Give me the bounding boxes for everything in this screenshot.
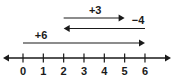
jump-arrowhead (119, 14, 125, 21)
axis-tick-label: 4 (101, 65, 108, 77)
axis-tick-label: 3 (81, 65, 87, 77)
jump-arrows-group: +3−4+6 (23, 4, 145, 47)
axis-tick-label: 2 (61, 65, 67, 77)
number-line-canvas: +3−4+6 0123456 (0, 0, 174, 80)
jump-arrow-label: +3 (89, 4, 102, 16)
axis-left-arrowhead (3, 54, 9, 61)
jump-arrow-label: +6 (35, 29, 48, 41)
jump-arrow-label: −4 (132, 14, 145, 26)
jump-arrowhead (64, 25, 70, 32)
number-line-figure: +3−4+6 0123456 (0, 0, 174, 80)
axis-tick-label: 6 (142, 65, 148, 77)
jump-arrow: +3 (64, 4, 125, 22)
axis-tick-label: 5 (122, 65, 128, 77)
tick-labels-group: 0123456 (20, 65, 148, 77)
jump-arrow: −4 (64, 14, 145, 33)
jump-arrowhead (139, 39, 145, 46)
jump-arrow: +6 (23, 29, 145, 47)
axis-tick-label: 0 (20, 65, 26, 77)
axis-tick-label: 1 (40, 65, 46, 77)
number-line-axis-group (3, 54, 171, 63)
axis-right-arrowhead (165, 54, 171, 61)
